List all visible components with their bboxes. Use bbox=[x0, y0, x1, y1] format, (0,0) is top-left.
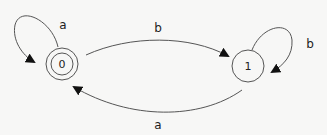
edge-0-to-1 bbox=[86, 40, 228, 56]
state-1-label: 1 bbox=[245, 60, 252, 73]
loop-0-label: a bbox=[59, 18, 66, 32]
automaton-diagram: 0 1 a b b a bbox=[0, 0, 327, 135]
loop-0-edge bbox=[14, 16, 58, 62]
edge-0-to-1-label: b bbox=[154, 21, 162, 35]
edge-1-to-0 bbox=[74, 87, 242, 112]
diagram-svg: 0 1 a b b a bbox=[0, 0, 327, 135]
state-0: 0 bbox=[46, 48, 78, 80]
edge-1-to-0-label: a bbox=[154, 118, 161, 132]
loop-1-label: b bbox=[306, 37, 314, 51]
state-1: 1 bbox=[232, 50, 264, 82]
loop-1-edge bbox=[252, 28, 292, 72]
state-0-label: 0 bbox=[59, 58, 66, 71]
